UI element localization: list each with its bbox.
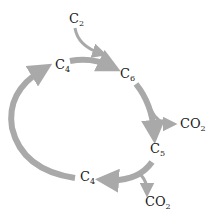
- cycle-diagram: [0, 0, 207, 221]
- arrow-c6-to-c5: [136, 84, 154, 132]
- label-c5: C5: [150, 142, 165, 155]
- arrow-c5-to-co2: [141, 175, 147, 190]
- label-co2-bottom: CO2: [145, 195, 171, 208]
- label-c4-bottom: C4: [80, 170, 95, 183]
- label-c4-top: C4: [55, 58, 70, 71]
- arrow-c4-to-c4-arc: [11, 70, 75, 178]
- label-c2: C2: [69, 12, 84, 25]
- label-co2-right: CO2: [180, 117, 206, 130]
- arrow-c4-to-c6: [70, 60, 110, 66]
- arrow-c5-to-c4: [107, 162, 152, 180]
- arrow-c2-to-c6: [75, 28, 100, 53]
- label-c6: C6: [120, 67, 135, 80]
